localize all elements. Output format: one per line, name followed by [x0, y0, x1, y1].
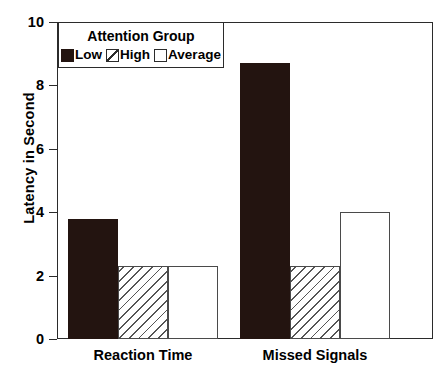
legend-entries: LowHighAverage [65, 48, 217, 62]
x-axis-category-label: Missed Signals [240, 347, 390, 363]
legend: Attention Group LowHighAverage [58, 22, 224, 68]
bar-low-1 [68, 219, 118, 339]
legend-entry-label: Low [75, 48, 102, 62]
bar-high-2 [290, 266, 340, 339]
bar-average-2 [340, 212, 390, 339]
y-axis-tick-mark [49, 339, 57, 340]
y-axis-tick-label: 0 [36, 329, 44, 349]
y-axis-tick-mark [49, 276, 57, 277]
y-axis-tick-label: 8 [36, 75, 44, 95]
legend-entry-average: Average [154, 48, 221, 62]
legend-title: Attention Group [65, 27, 217, 48]
bar-high-1 [118, 266, 168, 339]
empty-white-swatch [154, 49, 167, 62]
y-axis-tick-label: 2 [36, 266, 44, 286]
solid-black-swatch [61, 49, 74, 62]
bars-layer [57, 22, 433, 339]
y-axis-tick-label: 4 [36, 202, 44, 222]
y-axis-tick-mark [49, 22, 57, 23]
legend-entry-label: Average [168, 48, 221, 62]
bar-average-1 [168, 266, 218, 339]
legend-entry-low: Low [61, 48, 102, 62]
bar-low-2 [240, 63, 290, 339]
y-axis-tick-label: 6 [36, 139, 44, 159]
y-axis-tick-mark [49, 85, 57, 86]
legend-entry-high: High [106, 48, 150, 62]
y-axis-tick-mark [49, 212, 57, 213]
legend-entry-label: High [120, 48, 150, 62]
y-axis-tick-label: 10 [28, 12, 44, 32]
x-axis-category-label: Reaction Time [68, 347, 218, 363]
bar-chart: Latency in Second 0246810 Reaction TimeM… [0, 0, 447, 377]
diagonal-hatch-swatch [106, 49, 119, 62]
y-axis-tick-mark [49, 149, 57, 150]
y-axis-title: Latency in Second [21, 73, 37, 243]
